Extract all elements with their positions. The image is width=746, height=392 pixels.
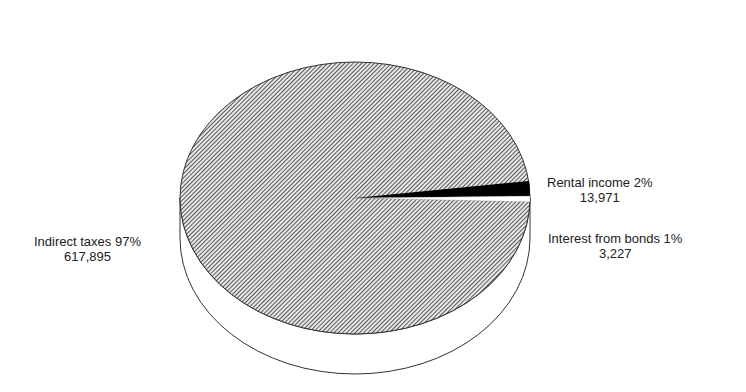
label-indirect-taxes: Indirect taxes 97% 617,895 [34, 234, 141, 264]
label-rental-income: Rental income 2% 13,971 [547, 175, 653, 205]
label-interest-bonds: Interest from bonds 1% 3,227 [548, 231, 682, 261]
label-indirect-taxes-title: Indirect taxes 97% [34, 234, 141, 249]
label-indirect-taxes-value: 617,895 [34, 249, 141, 264]
label-interest-bonds-value: 3,227 [548, 246, 682, 261]
label-interest-bonds-title: Interest from bonds 1% [548, 231, 682, 246]
label-rental-income-title: Rental income 2% [547, 175, 653, 190]
label-rental-income-value: 13,971 [547, 190, 653, 205]
